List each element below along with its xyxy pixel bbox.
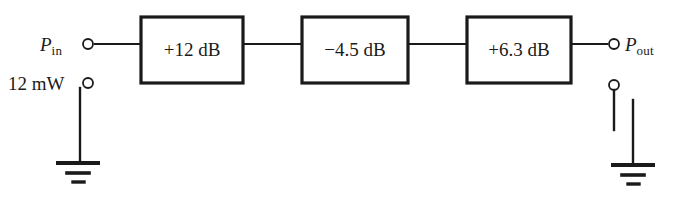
block-label-stage-2: −4.5 dB (302, 40, 408, 59)
port-label-p-in: Pin (40, 35, 62, 54)
block-label-stage-1: +12 dB (141, 40, 243, 59)
terminal-p-in (83, 39, 93, 49)
block-label-stage-3: +6.3 dB (467, 40, 571, 59)
p-out-symbol: P (625, 34, 637, 55)
source-value-label: 12 mW (8, 74, 64, 93)
terminal-output-return (609, 80, 619, 90)
schematic-canvas (0, 0, 686, 198)
terminal-source (83, 78, 93, 88)
p-in-subscript: in (52, 43, 63, 58)
p-in-symbol: P (40, 34, 52, 55)
terminal-p-out (609, 39, 619, 49)
circuit-diagram: +12 dB −4.5 dB +6.3 dB Pin Pout 12 mW (0, 0, 686, 198)
port-label-p-out: Pout (625, 35, 654, 54)
p-out-subscript: out (637, 43, 654, 58)
